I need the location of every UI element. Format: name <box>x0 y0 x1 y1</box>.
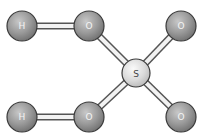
atom-o4: O <box>166 102 196 132</box>
sulfuric-acid-diagram: H O O S H O O <box>0 0 206 140</box>
atom-label: O <box>177 21 184 31</box>
atom-label: O <box>85 21 92 31</box>
atom-label: H <box>19 112 26 122</box>
atom-s: S <box>122 59 150 87</box>
atom-o2: O <box>74 102 104 132</box>
atom-label: O <box>177 112 184 122</box>
atom-o1: O <box>74 11 104 41</box>
atom-label: H <box>19 21 26 31</box>
atom-o3: O <box>166 11 196 41</box>
atom-label: O <box>85 112 92 122</box>
bonds <box>22 26 181 117</box>
atom-h2: H <box>7 102 37 132</box>
atom-h1: H <box>7 11 37 41</box>
atom-label: S <box>133 69 139 79</box>
